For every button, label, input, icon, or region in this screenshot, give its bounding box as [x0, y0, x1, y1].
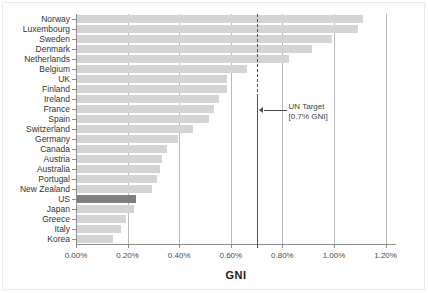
bar-row: [77, 215, 126, 223]
y-axis-tick: [72, 189, 76, 190]
un-target-line-solid: [257, 95, 258, 248]
x-axis-tick-label: 1.20%: [374, 251, 397, 260]
category-label-spain: Spain: [48, 115, 70, 124]
x-axis-tick: [334, 244, 335, 248]
bar: [77, 35, 332, 43]
y-axis-tick: [72, 169, 76, 170]
bar-row: [77, 15, 363, 23]
y-axis-tick: [72, 199, 76, 200]
bar-row: [77, 85, 227, 93]
category-label-belgium: Belgium: [39, 65, 70, 74]
bar-row: [77, 185, 152, 193]
bar: [77, 25, 358, 33]
annotation-line-2: [0.7% GNI]: [289, 112, 328, 122]
bar: [77, 205, 134, 213]
bar: [77, 125, 193, 133]
bar-row: [77, 75, 227, 83]
x-axis-tick-label: 0.00%: [65, 251, 88, 260]
category-axis-labels: NorwayLuxembourgSwedenDenmarkNetherlands…: [0, 14, 72, 244]
bar: [77, 215, 126, 223]
category-label-uk: UK: [58, 75, 70, 84]
chart-figure: NorwayLuxembourgSwedenDenmarkNetherlands…: [0, 0, 428, 293]
bar-row: [77, 105, 214, 113]
x-axis-tick: [386, 244, 387, 248]
annotation-leader-line: [264, 110, 287, 111]
bar: [77, 195, 136, 203]
y-axis-tick: [72, 179, 76, 180]
category-label-france: France: [44, 105, 70, 114]
y-axis-tick: [72, 119, 76, 120]
bar: [77, 65, 247, 73]
bar-row: [77, 155, 162, 163]
category-label-canada: Canada: [40, 145, 70, 154]
bar: [77, 155, 162, 163]
y-axis-tick: [72, 99, 76, 100]
category-label-australia: Australia: [37, 165, 70, 174]
category-label-denmark: Denmark: [36, 45, 70, 54]
y-axis-tick: [72, 209, 76, 210]
x-axis-tick: [128, 244, 129, 248]
bar-row: [77, 95, 219, 103]
y-axis-tick: [72, 109, 76, 110]
x-axis-tick: [179, 244, 180, 248]
y-axis-tick: [72, 29, 76, 30]
bar: [77, 45, 312, 53]
bar-row: [77, 25, 358, 33]
bar: [77, 95, 219, 103]
x-axis-tick: [231, 244, 232, 248]
y-axis-tick: [72, 239, 76, 240]
bar: [77, 175, 157, 183]
category-label-norway: Norway: [41, 15, 70, 24]
category-label-korea: Korea: [47, 235, 70, 244]
bar-row: [77, 165, 160, 173]
bar-row: [77, 235, 113, 243]
category-label-new-zealand: New Zealand: [20, 185, 70, 194]
y-axis-tick: [72, 219, 76, 220]
y-axis-tick: [72, 139, 76, 140]
bar-row: [77, 195, 136, 203]
bar: [77, 165, 160, 173]
bar: [77, 185, 152, 193]
y-axis-tick: [72, 159, 76, 160]
bar: [77, 85, 227, 93]
bar: [77, 235, 113, 243]
category-label-us: US: [58, 195, 70, 204]
category-label-italy: Italy: [54, 225, 70, 234]
y-axis-tick: [72, 39, 76, 40]
bar-row: [77, 175, 157, 183]
bar: [77, 15, 363, 23]
category-label-japan: Japan: [47, 205, 70, 214]
annotation-line-1: UN Target: [289, 102, 328, 112]
x-axis-line: [76, 244, 396, 245]
bar-row: [77, 225, 121, 233]
category-label-germany: Germany: [35, 135, 70, 144]
bar: [77, 115, 209, 123]
x-axis-tick-label: 0.80%: [271, 251, 294, 260]
y-axis-tick: [72, 19, 76, 20]
category-label-luxembourg: Luxembourg: [23, 25, 70, 34]
category-label-sweden: Sweden: [39, 35, 70, 44]
y-axis-tick: [72, 59, 76, 60]
bar-row: [77, 205, 134, 213]
category-label-netherlands: Netherlands: [24, 55, 70, 64]
plot-area: 0.00%0.20%0.40%0.60%0.80%1.00%1.20% GNI: [76, 14, 390, 244]
x-axis-tick: [282, 244, 283, 248]
x-axis-tick-label: 0.20%: [116, 251, 139, 260]
bar: [77, 105, 214, 113]
bar: [77, 225, 121, 233]
gridline: [386, 14, 387, 244]
x-axis-tick-label: 0.60%: [219, 251, 242, 260]
y-axis-tick: [72, 149, 76, 150]
bar: [77, 75, 227, 83]
bar-row: [77, 35, 332, 43]
category-label-portugal: Portugal: [38, 175, 70, 184]
y-axis-tick: [72, 229, 76, 230]
y-axis-tick: [72, 69, 76, 70]
category-label-ireland: Ireland: [44, 95, 70, 104]
bar-row: [77, 125, 193, 133]
bar-row: [77, 135, 178, 143]
y-axis-tick: [72, 89, 76, 90]
un-target-annotation: UN Target [0.7% GNI]: [289, 102, 328, 121]
category-label-switzerland: Switzerland: [26, 125, 70, 134]
bar-row: [77, 65, 247, 73]
